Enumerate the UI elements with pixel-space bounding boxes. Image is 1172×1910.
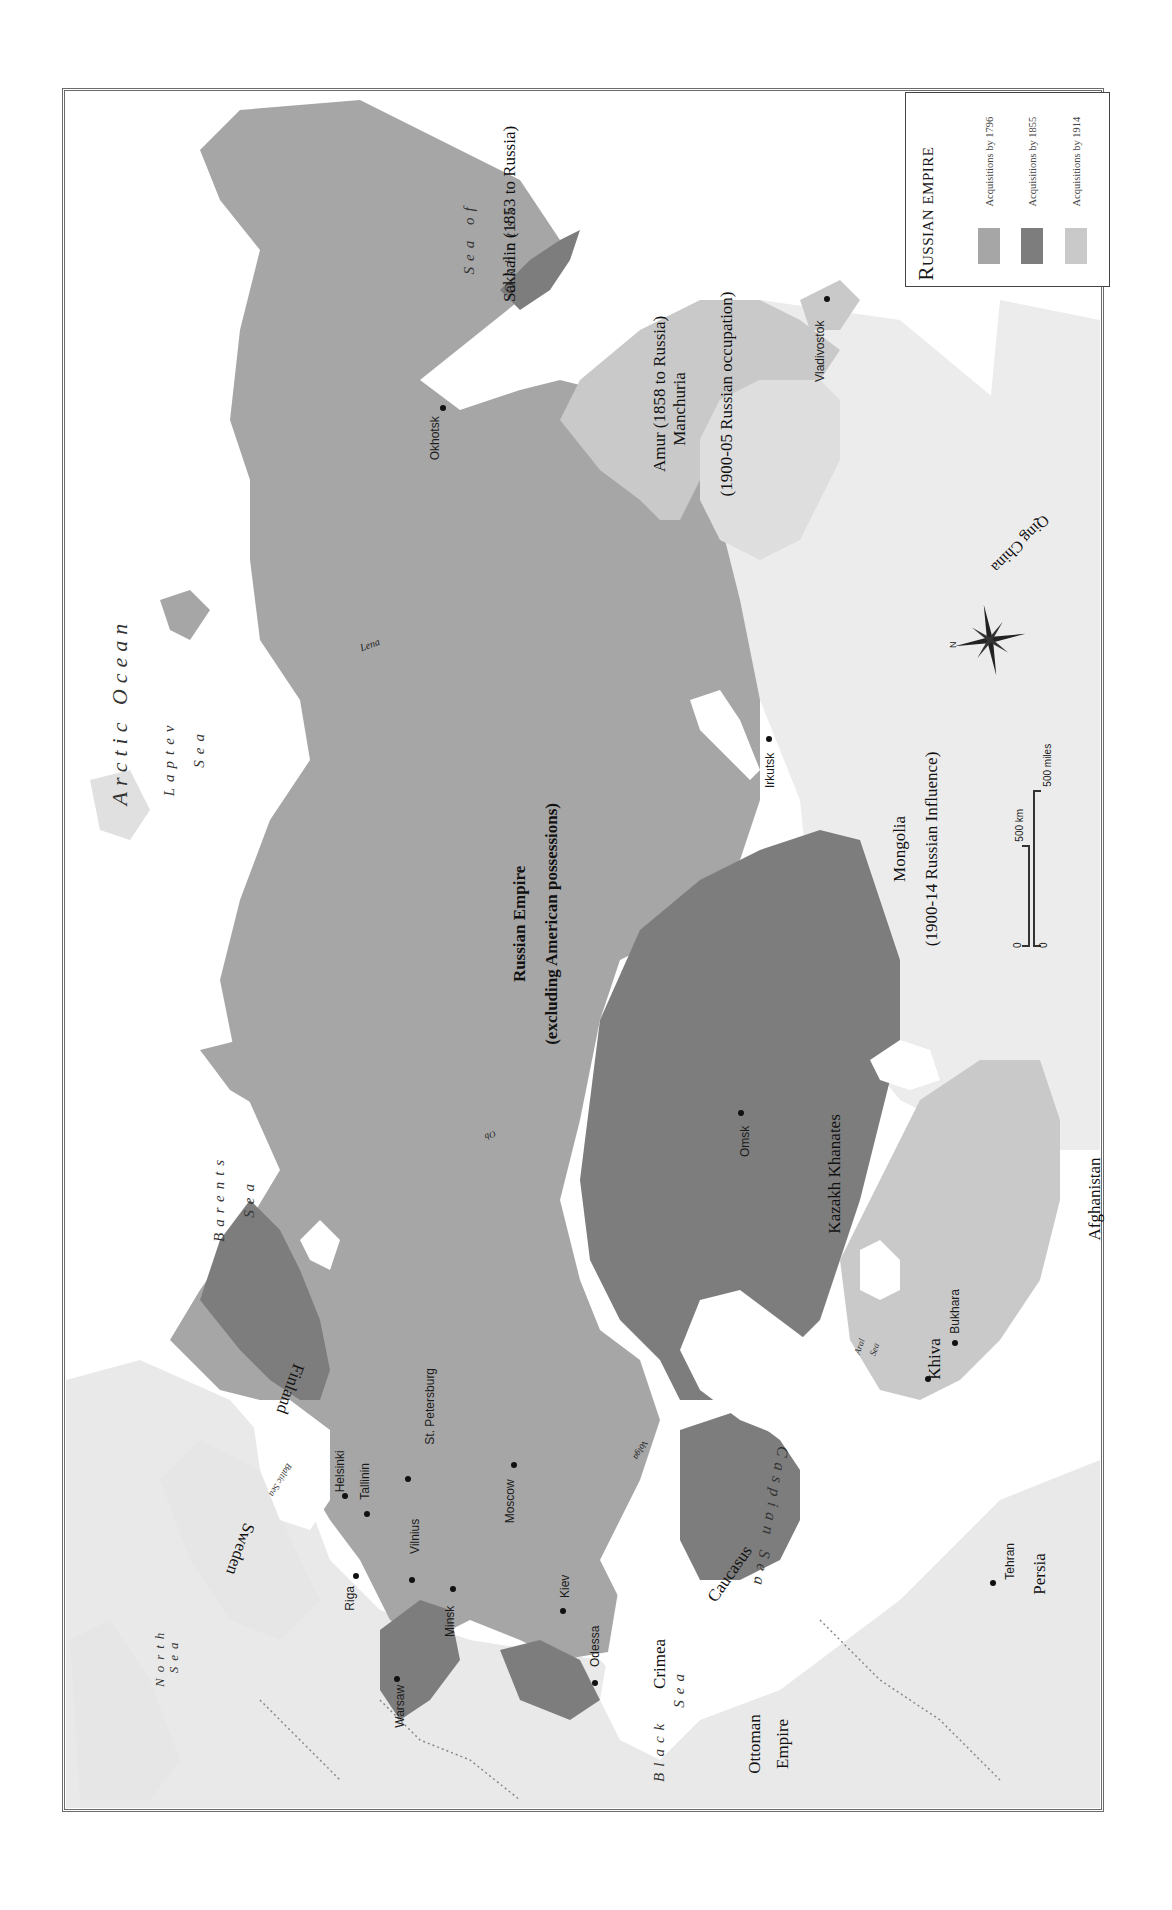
label-black-sea-2: Sea: [672, 1658, 688, 1718]
city-dot-odessa: [592, 1680, 598, 1686]
label-arctic-ocean: Arctic Ocean: [108, 612, 131, 812]
label-mongolia: Mongolia: [891, 789, 909, 909]
legend-label-1914: Acquisitions by 1914: [1071, 107, 1082, 207]
label-city-moscow: Moscow: [504, 1471, 517, 1531]
label-barents-sea-1: Barents: [212, 1148, 228, 1248]
scale-mi-zero: 0: [1039, 939, 1050, 951]
city-dot-vladivostok: [824, 296, 830, 302]
label-crimea: Crimea: [651, 1624, 669, 1704]
new-siberian-islands: [160, 590, 210, 640]
label-barents-sea-2: Sea: [242, 1168, 258, 1228]
label-manchuria-note: (1900-05 Russian occupation): [718, 269, 736, 519]
scale-km-label: 500 km: [1015, 803, 1026, 847]
label-city-st-petersburg: St. Petersburg: [424, 1356, 437, 1456]
label-city-odessa: Odessa: [589, 1616, 602, 1676]
city-dot-minsk: [450, 1586, 456, 1592]
legend-label-1855: Acquisitions by 1855: [1027, 107, 1038, 207]
compass-star-icon: [950, 600, 1030, 680]
label-city-vladivostok: Vladivostok: [814, 311, 827, 391]
label-city-helsinki: Helsinki: [334, 1441, 347, 1501]
legend-title: RUSSIAN EMPIRE: [914, 101, 939, 281]
city-dot-st-petersburg: [405, 1476, 411, 1482]
city-dot-moscow: [511, 1462, 517, 1468]
label-sakhalin: Sakhalin (1853 to Russia): [501, 104, 519, 324]
city-dot-vilnius: [409, 1577, 415, 1583]
label-persia: Persia: [1031, 1534, 1049, 1614]
city-dot-kiev: [560, 1608, 566, 1614]
label-city-bukhara: Bukhara: [949, 1281, 962, 1341]
label-black-sea-1: Black: [652, 1710, 668, 1790]
label-city-kiev: Kiev: [559, 1566, 572, 1606]
scale-km-zero: 0: [1013, 939, 1024, 951]
scale-bar-mi-tick-top: [1033, 790, 1041, 792]
scale-mi-label: 500 miles: [1043, 737, 1054, 793]
legend-swatch-1855: [1021, 228, 1043, 264]
label-city-riga: Riga: [344, 1578, 357, 1618]
label-city-vilnius: Vilnius: [409, 1506, 422, 1566]
city-dot-omsk: [738, 1110, 744, 1116]
label-sea-of-okhotsk-1: Sea of: [462, 188, 478, 288]
label-amur: Amur (1858 to Russia): [651, 294, 669, 494]
label-city-tehran: Tehran: [1004, 1531, 1017, 1591]
legend-swatch-1914: [1065, 228, 1087, 264]
label-mongolia-note: (1900-14 Russian Influence): [923, 729, 941, 969]
label-manchuria: Manchuria: [671, 349, 689, 469]
scale-bar-km-line: [1028, 845, 1030, 945]
compass-rose: N: [950, 600, 1030, 680]
map-legend: RUSSIAN EMPIRE Acquisitions by 1796 Acqu…: [905, 92, 1110, 287]
label-laptev-sea-1: Laptev: [162, 718, 178, 798]
label-city-omsk: Omsk: [739, 1116, 752, 1166]
compass-north-label: N: [949, 639, 958, 651]
scale-bar: 0 500 km 0 500 miles: [1018, 800, 1078, 1000]
label-north-sea-1: North: [153, 1617, 167, 1697]
label-kazakh-khanates: Kazakh Khanates: [826, 1089, 844, 1259]
label-russian-empire-note: (excluding American possessions): [543, 774, 561, 1074]
legend-swatch-1796: [978, 228, 1000, 264]
legend-title-rest: USSIAN EMPIRE: [920, 147, 936, 266]
label-russian-empire: Russian Empire: [511, 824, 529, 1024]
label-city-tallinn: Tallinin: [359, 1451, 372, 1511]
label-ottoman-empire-2: Empire: [774, 1699, 792, 1789]
label-city-minsk: Minsk: [444, 1596, 457, 1646]
city-dot-khiva: [925, 1376, 931, 1382]
city-dot-tehran: [990, 1580, 996, 1586]
caspian-sea-water: [680, 1290, 860, 1440]
legend-label-1796: Acquisitions by 1796: [984, 107, 995, 207]
city-dot-tallinn: [364, 1511, 370, 1517]
scale-bar-mi-line: [1033, 790, 1035, 945]
label-afghanistan: Afghanistan: [1086, 1134, 1104, 1264]
label-ottoman-empire: Ottoman: [746, 1699, 764, 1789]
label-laptev-sea-2: Sea: [192, 718, 208, 778]
label-city-irkutsk: Irkutsk: [764, 740, 777, 800]
label-city-warsaw: Warsaw: [394, 1676, 407, 1736]
label-city-okhotsk: Okhotsk: [429, 408, 442, 468]
legend-title-cap: R: [914, 266, 938, 281]
label-north-sea-2: Sea: [167, 1625, 181, 1685]
